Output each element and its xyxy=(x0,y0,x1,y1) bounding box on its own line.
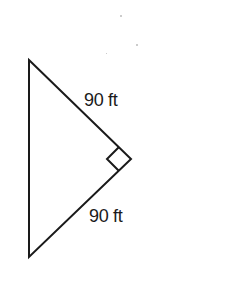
upper-leg-label: 90 ft xyxy=(84,91,118,109)
triangle-diagram: 90 ft 90 ft xyxy=(0,0,234,291)
lower-leg-label: 90 ft xyxy=(89,207,123,225)
scan-speck xyxy=(106,53,107,54)
triangle-figure xyxy=(0,0,234,291)
right-angle-marker-icon xyxy=(107,147,119,171)
scan-speck xyxy=(136,44,138,46)
scan-speck xyxy=(120,15,122,17)
